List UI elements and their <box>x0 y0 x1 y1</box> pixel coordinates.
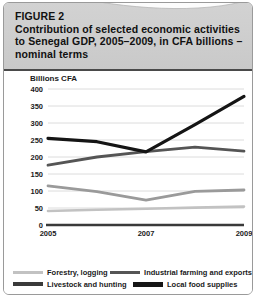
legend-item-forestry-logging: Forestry, logging <box>13 268 108 277</box>
figure-label: FIGURE 2 <box>15 10 246 23</box>
svg-text:250: 250 <box>30 136 43 145</box>
legend-label: Livestock and hunting <box>47 280 127 289</box>
legend-label: Forestry, logging <box>47 268 108 277</box>
svg-text:2009: 2009 <box>236 229 252 238</box>
legend-row-top: Forestry, logging Industrial farming and… <box>4 266 252 278</box>
svg-text:350: 350 <box>30 102 43 111</box>
plot-area: 050100150200250300350400200520072009 <box>4 85 252 251</box>
legend-row-bottom: Livestock and hunting Local food supplie… <box>4 278 252 290</box>
figure-title-line-3: nominal terms <box>15 48 246 61</box>
legend-item-livestock-and-hunting: Livestock and hunting <box>13 280 131 289</box>
svg-text:400: 400 <box>30 85 43 94</box>
page-title: FIGURE 2 Contribution of selected econom… <box>15 10 246 60</box>
legend-swatch-icon <box>110 271 140 274</box>
svg-text:200: 200 <box>30 153 43 162</box>
figure-title-line-2: to Senegal GDP, 2005–2009, in CFA billio… <box>15 35 246 48</box>
svg-text:100: 100 <box>30 187 43 196</box>
legend-item-local-food-supplies: Local food supplies <box>133 280 237 289</box>
legend-swatch-icon <box>133 282 163 287</box>
figure-card: FIGURE 2 Contribution of selected econom… <box>3 2 253 295</box>
chart-legend: Forestry, logging Industrial farming and… <box>4 266 252 292</box>
svg-text:50: 50 <box>35 204 43 213</box>
svg-text:300: 300 <box>30 119 43 128</box>
legend-swatch-icon <box>13 271 43 274</box>
svg-text:2007: 2007 <box>138 229 155 238</box>
figure-title-line-1: Contribution of selected economic activi… <box>15 23 246 36</box>
line-chart: 050100150200250300350400200520072009 <box>4 85 252 251</box>
legend-label: Local food supplies <box>167 280 237 289</box>
svg-text:2005: 2005 <box>40 229 57 238</box>
legend-item-industrial-farming-and-exports: Industrial farming and exports <box>110 268 252 277</box>
chart-body: Billions CFA 050100150200250300350400200… <box>4 71 252 295</box>
y-axis-unit-label: Billions CFA <box>30 74 77 83</box>
figure-header: FIGURE 2 Contribution of selected econom… <box>4 3 252 71</box>
svg-text:150: 150 <box>30 170 43 179</box>
legend-label: Industrial farming and exports <box>144 268 252 277</box>
legend-swatch-icon <box>13 282 43 286</box>
